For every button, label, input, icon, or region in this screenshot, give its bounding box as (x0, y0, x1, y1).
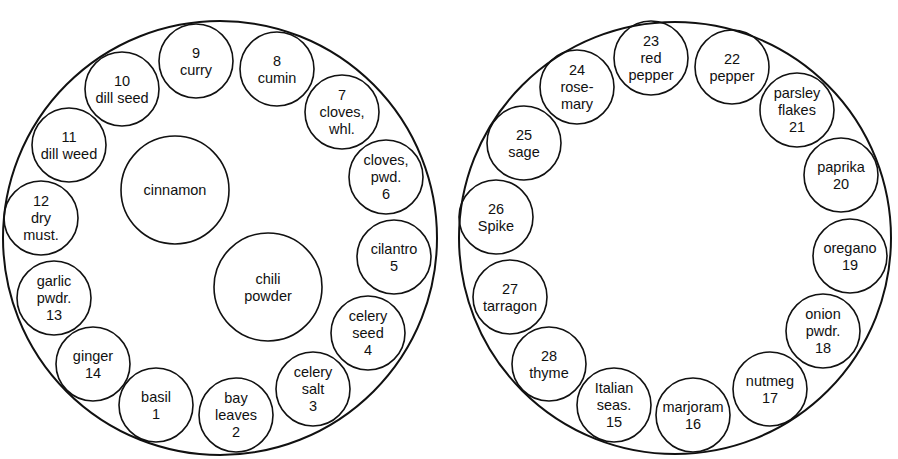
jar-label: 14 (85, 365, 101, 381)
jar-label: nutmeg (746, 373, 794, 389)
jar-label: Spike (478, 218, 514, 234)
jar-label: 5 (390, 258, 398, 274)
jar-celery-salt: celerysalt3 (276, 352, 350, 426)
jar-label: 16 (685, 416, 701, 432)
jar-label: 25 (516, 127, 532, 143)
jar-label: 28 (541, 348, 557, 364)
jar-label: seas. (597, 397, 632, 413)
jar-label: mary (561, 96, 594, 112)
jar-marjoram: marjoram16 (656, 378, 730, 452)
jar-label: cinnamon (144, 182, 207, 198)
jar-label: tarragon (483, 298, 537, 314)
jar-dry-must: 12drymust. (4, 181, 78, 255)
right-carousel: Italianseas.15marjoram16nutmeg17onionpwd… (459, 21, 891, 454)
jar-label: salt (302, 381, 325, 397)
jar-rosemary: 24rose-mary (540, 50, 614, 124)
jar-cloves-whl: 7cloves,whl. (305, 75, 379, 149)
jar-label: 17 (762, 390, 778, 406)
carousel-outline (3, 21, 437, 455)
jar-label: curry (180, 62, 213, 78)
jar-label: 10 (114, 73, 130, 89)
jar-dill-seed: 10dill seed (85, 52, 159, 126)
jar-celery-seed: celeryseed4 (331, 296, 405, 370)
jar-pepper: 22pepper (695, 30, 769, 104)
jar-label: 27 (502, 281, 518, 297)
jar-label: garlic (37, 273, 72, 289)
jar-parsley-flakes: parsleyflakes21 (760, 73, 834, 147)
jar-chili-powder: chilipowder (214, 233, 322, 341)
jar-label: oregano (823, 240, 876, 256)
jar-label: marjoram (662, 399, 723, 415)
jar-label: chili (256, 271, 281, 287)
jar-label: 23 (643, 33, 659, 49)
jar-label: flakes (778, 102, 816, 118)
jar-label: 7 (338, 87, 346, 103)
jar-label: 6 (382, 186, 390, 202)
jar-label: 2 (232, 424, 240, 440)
jar-label: whl. (328, 121, 355, 137)
jar-label: pwd. (371, 169, 402, 185)
jar-label: cumin (258, 70, 297, 86)
jar-cinnamon: cinnamon (121, 136, 229, 244)
jar-oregano: oregano19 (813, 219, 887, 293)
jar-label: dry (31, 210, 52, 226)
jar-tarragon: 27tarragon (473, 260, 547, 334)
spice-carousel-diagram: cinnamonchilipowderbasil1bayleaves2celer… (0, 0, 898, 459)
jar-label: 18 (815, 340, 831, 356)
jar-label: bay (224, 390, 248, 406)
jar-label: dill seed (95, 90, 148, 106)
jar-label: 8 (273, 53, 281, 69)
jar-label: pepper (628, 67, 673, 83)
jar-ginger: ginger14 (56, 327, 130, 401)
jar-label: onion (805, 306, 840, 322)
jar-label: pwdr. (806, 323, 841, 339)
jar-label: 22 (724, 51, 740, 67)
jar-label: 20 (833, 176, 849, 192)
jar-label: celery (349, 308, 388, 324)
jar-label: pwdr. (37, 290, 72, 306)
jar-label: 1 (152, 406, 160, 422)
jar-label: 26 (488, 201, 504, 217)
jar-label: powder (244, 288, 292, 304)
jar-label: ginger (73, 348, 113, 364)
jar-label: Italian (595, 380, 634, 396)
jar-label: 21 (789, 119, 805, 135)
jar-spike: 26Spike (459, 180, 533, 254)
jar-label: celery (294, 364, 333, 380)
jar-label: 4 (364, 342, 372, 358)
jar-label: pepper (709, 68, 754, 84)
left-carousel: cinnamonchilipowderbasil1bayleaves2celer… (3, 21, 437, 455)
jar-cilantro: cilantro5 (357, 220, 431, 294)
jar-italian-seas: Italianseas.15 (577, 368, 651, 442)
jar-dill-weed: 11dill weed (32, 108, 106, 182)
jar-label: seed (352, 325, 383, 341)
jar-label: sage (508, 144, 539, 160)
jar-label: paprika (817, 159, 865, 175)
jar-bay-leaves: bayleaves2 (199, 378, 273, 452)
jar-label: 13 (46, 307, 62, 323)
jar-label: dill weed (41, 146, 97, 162)
jar-nutmeg: nutmeg17 (733, 352, 807, 426)
jar-label: leaves (215, 407, 257, 423)
jar-red-pepper: 23redpepper (614, 21, 688, 95)
jar-curry: 9curry (159, 24, 233, 98)
jar-onion-pwdr: onionpwdr.18 (786, 294, 860, 368)
jar-garlic-pwdr: garlicpwdr.13 (17, 261, 91, 335)
jar-basil: basil1 (119, 368, 193, 442)
jar-cloves-pwd: cloves,pwd.6 (349, 140, 423, 214)
jar-label: rose- (560, 79, 593, 95)
jar-label: 3 (309, 398, 317, 414)
jar-label: basil (141, 389, 171, 405)
jar-label: cilantro (371, 241, 418, 257)
jar-label: 24 (569, 62, 585, 78)
jar-label: cloves, (319, 104, 364, 120)
jar-label: parsley (774, 85, 821, 101)
jar-cumin: 8cumin (240, 32, 314, 106)
jar-label: 12 (33, 193, 49, 209)
jar-sage: 25sage (487, 106, 561, 180)
jar-label: 19 (842, 257, 858, 273)
jar-thyme: 28thyme (512, 327, 586, 401)
jar-label: 9 (192, 45, 200, 61)
jar-paprika: paprika20 (804, 138, 878, 212)
jar-label: cloves, (363, 152, 408, 168)
